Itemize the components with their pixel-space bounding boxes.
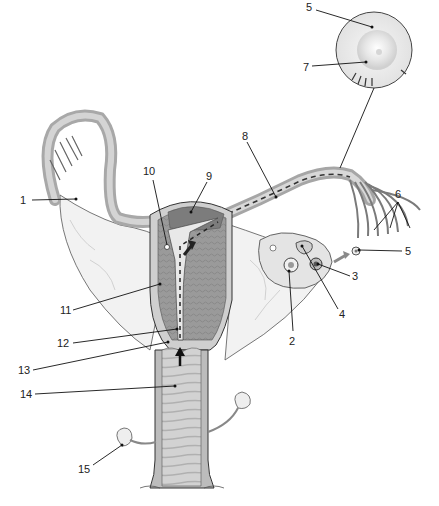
right-fallopian-tube [218, 172, 420, 238]
label-2: 2 [289, 335, 295, 347]
label-15: 15 [78, 463, 90, 475]
label-11: 11 [60, 304, 71, 316]
label-7: 7 [303, 61, 309, 73]
label-12: 12 [57, 337, 69, 349]
label-14: 14 [20, 388, 32, 400]
label-6: 6 [395, 188, 401, 200]
label-5-inset: 5 [306, 1, 312, 13]
label-5-ovum: 5 [405, 245, 411, 257]
label-4: 4 [339, 308, 345, 320]
label-9: 9 [206, 170, 212, 182]
label-8: 8 [242, 130, 248, 142]
reproductive-anatomy-diagram: 1 2 3 4 5 5 6 7 8 9 10 11 12 13 14 15 [0, 0, 439, 506]
label-13: 13 [18, 364, 30, 376]
vagina [140, 347, 224, 488]
label-3: 3 [352, 270, 358, 282]
released-ovum [334, 247, 360, 262]
label-1: 1 [20, 194, 26, 206]
fertilization-inset [336, 12, 412, 168]
label-10: 10 [143, 165, 155, 177]
